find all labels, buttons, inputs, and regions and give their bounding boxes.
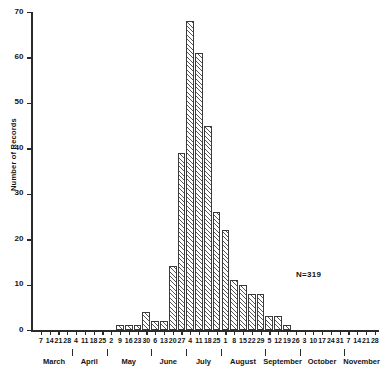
x-axis-tick-label: 24	[327, 337, 335, 344]
x-axis-tick-label: 19	[283, 337, 291, 344]
histogram-bar	[169, 266, 177, 330]
x-axis-tick	[164, 331, 165, 335]
y-axis-tick: 50	[27, 103, 32, 104]
x-axis-tick-label: 2	[109, 337, 113, 344]
x-axis-tick	[296, 331, 297, 335]
x-axis-tick-label: 11	[81, 337, 88, 344]
x-axis-line	[31, 330, 379, 332]
x-axis-tick-label: 18	[90, 337, 98, 344]
x-axis-tick-label: 5	[267, 337, 271, 344]
y-axis-tick-label: 10	[15, 279, 24, 288]
month-separator-tick	[72, 349, 73, 356]
x-axis-tick	[208, 331, 209, 335]
x-axis-tick-label: 25	[98, 337, 106, 344]
x-axis-tick-label: 30	[142, 337, 150, 344]
x-axis-tick	[102, 331, 103, 335]
x-axis-tick-label: 23	[134, 337, 142, 344]
month-label: November	[343, 357, 380, 366]
x-axis-tick	[357, 331, 358, 335]
y-axis-tick: 0	[27, 330, 32, 331]
x-axis-tick-label: 26	[292, 337, 300, 344]
x-axis-tick-label: 27	[178, 337, 186, 344]
x-axis-tick	[181, 331, 182, 335]
histogram-bar	[230, 280, 238, 330]
x-axis-tick	[269, 331, 270, 335]
x-axis-tick	[375, 331, 376, 335]
x-axis-tick-label: 11	[195, 337, 202, 344]
plot-area: 010203040506070 714212841118252916233061…	[31, 12, 379, 330]
month-separator-tick	[221, 349, 222, 356]
x-axis-tick-label: 28	[63, 337, 71, 344]
x-axis-tick	[111, 331, 112, 335]
y-axis-tick-label: 50	[15, 97, 24, 106]
y-axis-tick-label: 60	[15, 52, 24, 61]
x-axis-tick-label: 4	[74, 337, 78, 344]
month-separator-tick	[151, 349, 152, 356]
x-axis-tick-label: 16	[125, 337, 133, 344]
x-axis-tick	[67, 331, 68, 335]
month-label: May	[121, 357, 136, 366]
histogram-bar	[125, 325, 133, 330]
x-axis-tick-label: 29	[257, 337, 265, 344]
x-axis-tick-label: 15	[239, 337, 247, 344]
month-separator-tick	[300, 349, 301, 356]
x-axis-tick	[278, 331, 279, 335]
month-separator-tick	[344, 349, 345, 356]
x-axis-tick	[261, 331, 262, 335]
x-axis-tick	[287, 331, 288, 335]
histogram-bar	[239, 285, 247, 330]
y-axis-tick: 40	[27, 148, 32, 149]
x-axis-tick	[50, 331, 51, 335]
y-axis-line	[31, 12, 33, 330]
y-axis-tick: 70	[27, 12, 32, 13]
x-axis-tick-label: 14	[353, 337, 361, 344]
x-axis-tick-label: 31	[336, 337, 344, 344]
histogram-bar	[186, 21, 194, 330]
histogram-bar	[116, 325, 124, 330]
x-axis-tick	[340, 331, 341, 335]
x-axis-tick	[173, 331, 174, 335]
y-axis-tick: 20	[27, 239, 32, 240]
x-axis-tick	[313, 331, 314, 335]
histogram-bar	[248, 294, 256, 330]
histogram-bar	[204, 126, 212, 330]
x-axis-tick	[155, 331, 156, 335]
x-axis-tick-label: 6	[153, 337, 157, 344]
x-axis-tick	[331, 331, 332, 335]
x-axis-tick-label: 3	[303, 337, 307, 344]
month-label: April	[81, 357, 98, 366]
histogram-bar	[160, 321, 168, 330]
x-axis-tick	[322, 331, 323, 335]
x-axis-tick-label: 4	[188, 337, 192, 344]
month-separator-tick	[265, 349, 266, 356]
y-axis-tick-label: 30	[15, 188, 24, 197]
y-axis-tick: 10	[27, 285, 32, 286]
histogram-bar	[257, 294, 265, 330]
x-axis-tick	[129, 331, 130, 335]
x-axis-tick	[217, 331, 218, 335]
x-axis-tick	[146, 331, 147, 335]
y-axis-tick-label: 0	[19, 325, 23, 334]
x-axis-tick	[305, 331, 306, 335]
x-axis-tick	[58, 331, 59, 335]
x-axis-tick	[138, 331, 139, 335]
x-axis-tick	[234, 331, 235, 335]
x-axis-tick-label: 28	[371, 337, 379, 344]
histogram-bar	[265, 316, 273, 330]
x-axis-tick	[348, 331, 349, 335]
x-axis-tick-label: 13	[160, 337, 168, 344]
x-axis-tick-label: 1	[223, 337, 227, 344]
x-axis-tick-label: 7	[346, 337, 350, 344]
month-label: October	[308, 357, 337, 366]
y-axis-tick-label: 40	[15, 143, 24, 152]
month-label: March	[43, 357, 65, 366]
month-label: August	[230, 357, 256, 366]
histogram-bar	[222, 230, 230, 330]
histogram-bar	[195, 53, 203, 330]
x-axis-tick-label: 18	[204, 337, 212, 344]
x-axis-tick	[41, 331, 42, 335]
histogram-bar	[283, 325, 291, 330]
x-axis-tick-label: 10	[309, 337, 317, 344]
x-axis-tick-label: 14	[46, 337, 54, 344]
month-label: July	[196, 357, 211, 366]
